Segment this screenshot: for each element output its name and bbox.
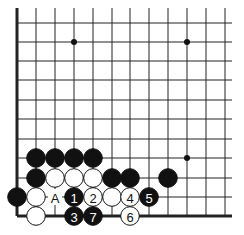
move-number: 3 bbox=[70, 210, 77, 225]
star-point bbox=[184, 155, 190, 161]
move-number: 5 bbox=[145, 191, 152, 206]
black-stone bbox=[27, 169, 46, 188]
black-stone bbox=[84, 149, 103, 168]
black-stone bbox=[121, 169, 140, 188]
move-number: 4 bbox=[126, 191, 133, 206]
star-point bbox=[184, 39, 190, 45]
white-stone bbox=[65, 169, 84, 188]
black-stone bbox=[27, 149, 46, 168]
move-number: 6 bbox=[126, 210, 133, 225]
black-stone bbox=[159, 169, 178, 188]
star-point bbox=[71, 39, 77, 45]
black-stone bbox=[65, 149, 84, 168]
marker-label: A bbox=[51, 191, 60, 206]
black-stone bbox=[8, 188, 27, 207]
white-stone bbox=[27, 207, 46, 226]
move-number: 1 bbox=[70, 191, 77, 206]
move-number: 2 bbox=[89, 191, 96, 206]
go-board: A1245376 bbox=[0, 0, 244, 235]
move-number: 7 bbox=[89, 210, 96, 225]
black-stone bbox=[46, 149, 65, 168]
white-stone bbox=[27, 188, 46, 207]
white-stone bbox=[103, 188, 122, 207]
white-stone bbox=[84, 169, 103, 188]
white-stone bbox=[46, 169, 65, 188]
black-stone bbox=[103, 169, 122, 188]
